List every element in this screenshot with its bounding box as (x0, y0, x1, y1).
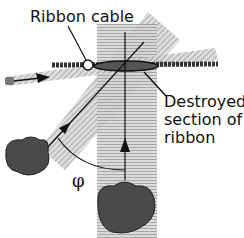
diagram-canvas: Ribbon cable Destroyed section of ribbon… (0, 0, 244, 238)
destroyed-line-1: Destroyed (164, 93, 244, 111)
ribbon-cable-label: Ribbon cable (30, 8, 134, 26)
destroyed-section-label: Destroyed section of ribbon (164, 93, 244, 147)
incoming-source (5, 77, 14, 85)
particle-left (6, 137, 49, 175)
angle-label: φ (72, 172, 85, 190)
cable-marker (83, 60, 93, 70)
ribbon-leader (68, 26, 86, 60)
destroyed-line-3: ribbon (164, 129, 244, 147)
destroyed-line-2: section of (164, 111, 244, 129)
